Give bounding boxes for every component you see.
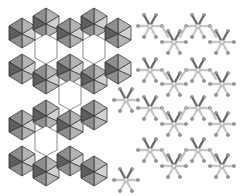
crystal-structure-figure [0,0,241,196]
polyhedral-framework [9,8,131,186]
